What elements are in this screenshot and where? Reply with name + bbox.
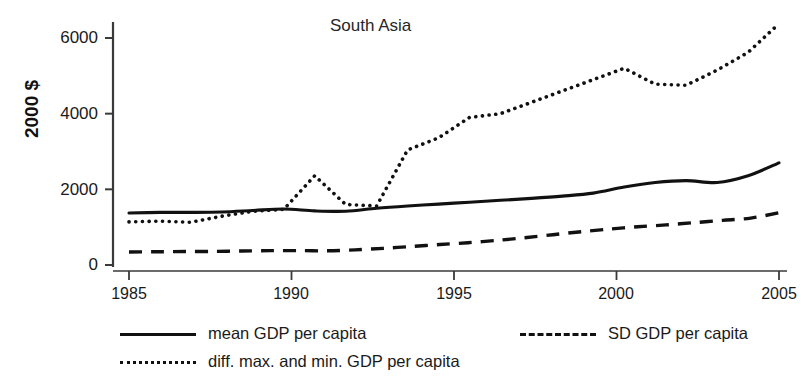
legend-swatch-dashed-icon: [520, 328, 596, 340]
legend-label-diff: diff. max. and min. GDP per capita: [208, 352, 460, 371]
y-tick-marks: [105, 38, 113, 265]
legend-label-mean: mean GDP per capita: [208, 324, 366, 343]
legend-swatch-dotted-icon: [120, 356, 196, 368]
legend-entry-diff: diff. max. and min. GDP per capita: [120, 352, 460, 371]
axes: [105, 22, 787, 280]
legend-entry-sd: SD GDP per capita: [520, 324, 748, 343]
legend-label-sd: SD GDP per capita: [608, 324, 748, 343]
legend-swatch-solid-icon: [120, 328, 196, 340]
chart-legend: mean GDP per capita SD GDP per capita di…: [0, 318, 794, 376]
series-line-diff-max-min: [129, 24, 779, 223]
x-tick-marks: [129, 271, 779, 280]
series-line-mean: [129, 163, 779, 213]
data-series-group: [129, 24, 779, 252]
legend-entry-mean: mean GDP per capita: [120, 324, 366, 343]
series-line-sd: [129, 213, 779, 252]
